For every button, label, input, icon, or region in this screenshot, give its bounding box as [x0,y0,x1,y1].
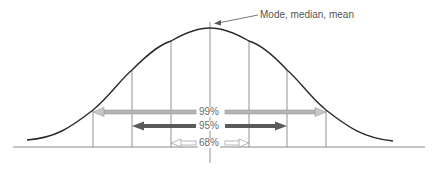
mode-median-mean-label: Mode, median, mean [260,9,354,20]
label-95: 95% [198,121,220,131]
annotation-arrowhead-icon [214,20,221,26]
annotation-pointer [218,15,258,23]
label-99: 99% [198,107,220,117]
sigma-lines [93,41,326,147]
label-68: 68% [198,138,220,148]
